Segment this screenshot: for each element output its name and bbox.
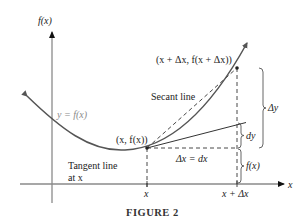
tick-label-x: x: [143, 188, 149, 199]
x-axis-label: x: [287, 179, 293, 190]
brace-fx: [238, 149, 244, 183]
derivative-differential-diagram: f(x) x y = f(x) (x, f(x)) (x + Δx, f(x +…: [0, 0, 301, 223]
point-label-x-dx: (x + Δx, f(x + Δx)): [156, 54, 232, 66]
tangent-label-line2: at x: [68, 172, 83, 183]
tangent-line: [147, 123, 246, 149]
point-x-dx-fx-dx: [235, 66, 239, 70]
brace-delta-y: [259, 68, 266, 148]
tick-label-x-plus-dx: x + Δx: [221, 188, 249, 199]
brace-label-delta-y: Δy: [267, 102, 279, 113]
y-axis-label: f(x): [38, 15, 53, 27]
brace-label-dy: dy: [246, 130, 256, 141]
secant-label: Secant line: [151, 91, 196, 102]
curve-label: y = f(x): [56, 109, 88, 121]
brace-dy: [238, 123, 244, 148]
figure-caption: FIGURE 2: [126, 207, 179, 218]
tangent-label-line1: Tangent line: [68, 160, 118, 171]
point-label-x-fx: (x, f(x)): [116, 134, 148, 146]
dx-label: Δx = dx: [175, 153, 208, 164]
brace-label-fx: f(x): [246, 160, 261, 172]
point-x-fx: [145, 146, 149, 150]
